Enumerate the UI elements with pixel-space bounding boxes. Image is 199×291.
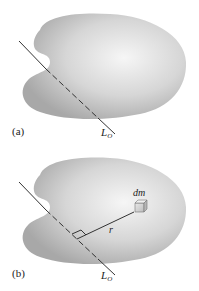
- axis-label-a: LO: [101, 127, 112, 138]
- diagram-canvas: [0, 0, 199, 291]
- panel-a: [19, 13, 186, 134]
- panel-label-a: (a): [12, 126, 24, 137]
- distance-label: r: [109, 225, 113, 235]
- axis-label-b: LO: [101, 270, 112, 281]
- panel-label-b: (b): [12, 268, 25, 279]
- rigid-body-a: [23, 13, 186, 119]
- mass-element-cube: [135, 200, 147, 212]
- axis-label-b-subscript: O: [107, 275, 112, 283]
- panel-b: [19, 158, 186, 275]
- axis-label-a-subscript: O: [107, 132, 112, 140]
- mass-element-label: dm: [133, 188, 145, 198]
